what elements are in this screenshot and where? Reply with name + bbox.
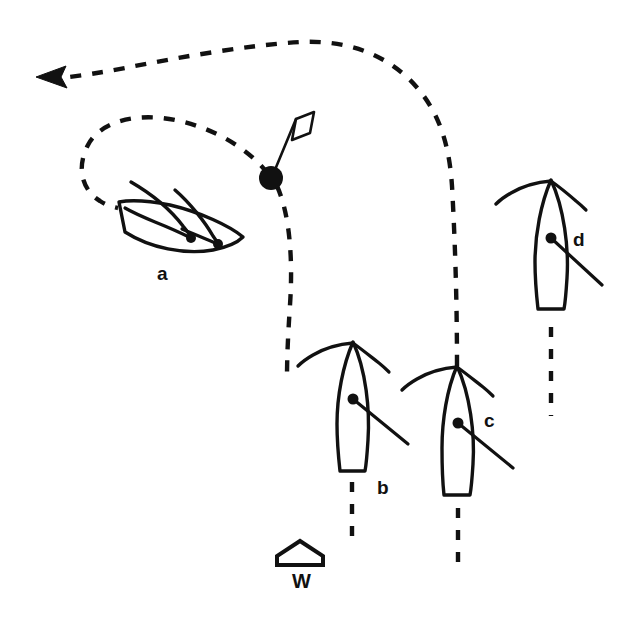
boat-c-mast	[453, 418, 464, 429]
track-upper-exit	[36, 42, 457, 366]
boat-d-mast	[546, 233, 557, 244]
track-rounding-loop	[82, 117, 268, 208]
track-direction-arrow-icon	[36, 66, 67, 88]
boat-b-label: b	[377, 478, 389, 497]
race-mark-group[interactable]	[259, 112, 314, 190]
mark-flag-icon	[292, 112, 314, 140]
boat-a-hull	[119, 201, 243, 252]
track-line-loop	[82, 117, 268, 208]
wind-label: W	[292, 571, 311, 591]
race-mark-buoy-icon	[259, 166, 283, 190]
wind-direction-arrow-icon	[277, 541, 323, 565]
boat-a-mast-aft	[213, 239, 223, 249]
boat-d-hull	[535, 180, 567, 309]
track-line-mark-down	[277, 186, 291, 376]
boat-b-mast	[348, 394, 359, 405]
boat-d-label: d	[573, 230, 585, 249]
sailing-diagram-canvas: a b c d W	[0, 0, 627, 640]
boat-c[interactable]	[402, 366, 513, 495]
boat-c-label: c	[484, 411, 495, 430]
boat-b[interactable]	[298, 342, 408, 471]
boat-d[interactable]	[496, 180, 602, 309]
track-mark-descending	[277, 186, 291, 376]
boat-a-mast-fore	[186, 233, 196, 243]
wind-indicator-group	[277, 541, 323, 565]
boat-a[interactable]	[119, 182, 243, 252]
boat-a-label: a	[157, 264, 168, 283]
diagram-vector-scene	[0, 0, 627, 640]
